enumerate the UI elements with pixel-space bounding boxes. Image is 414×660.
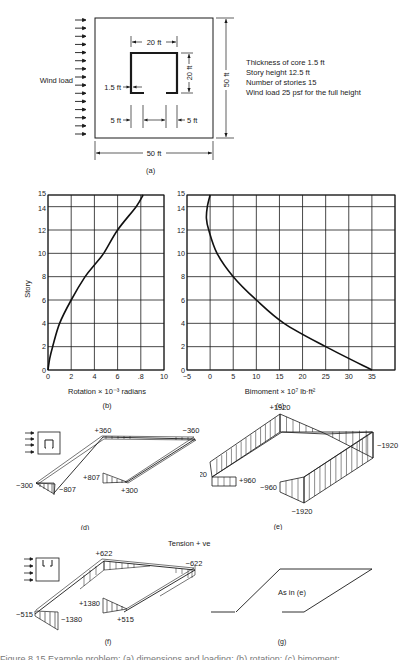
svg-text:10: 10 [160,372,168,381]
note-core-thickness: Thickness of core 1.5 ft [246,58,361,68]
dim-core-depth: 20 ft [185,65,194,81]
chart-bimoment: 0246810121415−505101520253035 [177,190,395,381]
note-wind-load: Wind load 25 psf for the full height [246,88,361,98]
svg-text:15: 15 [177,190,185,198]
wind-load-arrows [75,19,86,136]
dim-core-width: 20 ft [147,38,163,47]
mini-plan-icon [38,432,60,454]
panel-label-f: (f) [105,638,112,646]
y-axis-label-story: Story [23,280,32,298]
chart-rotation: 02468101214150246.810 [38,190,168,381]
dim-plan-width: 50 ft [147,149,163,158]
stress-value-bottom-right-corner: +300 [121,486,138,495]
stress-hatch [84,562,192,586]
stress-value-bottom-left-flange: −1380 [61,615,82,624]
svg-text:2: 2 [181,342,185,351]
svg-text:15: 15 [275,372,283,381]
svg-text:8: 8 [42,272,46,281]
panel-d-warping-stress-diagram: +360 −360 −300 −807 +807 +300 (d) [0,410,210,530]
stress-value-bottom-right-flange: +1380 [79,599,100,608]
section-outline [212,432,372,477]
same-as-e-note: As in (e) [278,588,306,597]
charts-b-c: 02468101214150246.810 0246810121415−5051… [0,190,414,420]
svg-text:5: 5 [231,372,235,381]
x-axis-label-bimoment: Bimoment × 10⁷ lb·ft² [245,387,316,396]
dim-plan-height: 50 ft [222,72,231,88]
svg-text:0: 0 [208,372,212,381]
note-number-stories: Number of stories 15 [246,78,361,88]
panel-e-bimoment-stress-diagram: +1920 −1920 +1920 +960 −960 −1920 (e) [200,400,414,530]
svg-text:8: 8 [181,272,185,281]
svg-text:10: 10 [252,372,260,381]
svg-text:14: 14 [38,204,46,213]
figure-caption-cropped: Figure 8.15 Example problem: (a) dimensi… [0,652,414,660]
stress-value-left-flange: +960 [239,476,256,485]
svg-text:4: 4 [42,319,46,328]
stress-value-left: +1920 [200,470,207,479]
mini-wind-arrows [25,432,34,454]
stress-value-top-left: +622 [96,549,113,558]
svg-text:10: 10 [38,249,46,258]
stress-value-bottom: −1920 [291,507,312,516]
stress-value-right-flange: −960 [260,483,277,492]
note-story-height: Story height 12.5 ft [246,68,361,78]
svg-text:14: 14 [177,204,185,213]
svg-text:6: 6 [116,372,120,381]
panel-g-diagram: As in (e) (g) [200,520,414,650]
design-notes: Thickness of core 1.5 ft Story height 12… [246,58,361,98]
stress-value-bottom-left-outer: −300 [16,481,33,490]
svg-text:10: 10 [177,249,185,258]
panel-label-b: (b) [102,401,112,410]
data-curve [206,195,372,370]
svg-text:.8: .8 [138,372,144,381]
stress-value-bottom-left-flange: −807 [59,485,76,494]
stress-value-bottom-right-flange: +807 [83,473,100,482]
dim-thickness: 1.5 ft [104,83,122,92]
svg-text:6: 6 [42,296,46,305]
svg-text:2: 2 [42,342,46,351]
svg-text:12: 12 [177,226,185,235]
wind-load-label: Wind load [40,76,73,85]
panel-label-a-text: (a) [146,166,155,175]
panel-label-g: (g) [278,638,287,646]
stress-value-right: −1920 [377,441,398,450]
stress-value-top-left: +360 [95,426,112,435]
svg-text:2: 2 [69,372,73,381]
stress-value-top-left: +1920 [269,403,290,412]
dim-flange-right: 5 ft [187,116,198,125]
svg-text:20: 20 [299,372,307,381]
svg-text:4: 4 [181,319,185,328]
mini-wind-arrows [24,558,33,582]
stress-value-bottom-right-corner: +515 [117,615,134,624]
svg-text:−5: −5 [183,372,191,381]
svg-text:0: 0 [46,372,50,381]
svg-text:6: 6 [181,296,185,305]
svg-text:35: 35 [368,372,376,381]
panel-a-plan: 20 ft 20 ft 50 ft 50 ft 1.5 ft [0,0,414,165]
svg-text:25: 25 [322,372,330,381]
svg-text:4: 4 [92,372,96,381]
stress-value-bottom-left-outer: −515 [16,610,33,619]
data-curve [48,195,143,370]
mini-plan-icon-open-top [36,558,59,581]
svg-text:12: 12 [38,226,46,235]
svg-text:30: 30 [345,372,353,381]
svg-text:15: 15 [38,190,46,198]
dim-flange-left: 5 ft [111,116,122,125]
stress-value-top-right: −360 [183,426,200,435]
x-axis-label-rotation: Rotation × 10⁻³ radians [68,387,146,396]
